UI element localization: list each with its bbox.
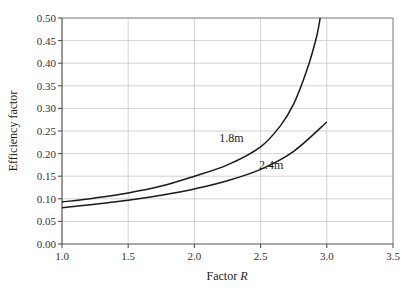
curve-label-2.4m: 2.4m: [259, 158, 284, 172]
y-tick-label: 0.30: [37, 102, 57, 114]
y-tick-label: 0.20: [37, 148, 57, 160]
x-tick-label: 2.0: [188, 250, 202, 262]
x-tick-label: 3.5: [386, 250, 400, 262]
x-axis-title: Factor R: [207, 269, 249, 283]
efficiency-chart: 1.01.52.02.53.03.5 0.000.050.100.150.200…: [0, 0, 413, 296]
y-tick-label: 0.05: [37, 215, 57, 227]
y-tick-label: 0.15: [37, 170, 57, 182]
y-tick-label: 0.40: [37, 57, 57, 69]
y-tick-label: 0.50: [37, 12, 57, 24]
y-tick-label: 0.35: [37, 80, 57, 92]
x-tick-label: 1.5: [121, 250, 135, 262]
x-tick-label: 3.0: [320, 250, 334, 262]
x-tick-label: 2.5: [254, 250, 268, 262]
x-tick-label: 1.0: [55, 250, 69, 262]
y-tick-label: 0.25: [37, 125, 57, 137]
curve-label-1.8m: 1.8m: [219, 131, 244, 145]
curve-1.8m: [62, 18, 320, 202]
y-tick-label: 0.45: [37, 35, 57, 47]
y-tick-label: 0.10: [37, 193, 57, 205]
y-axis-ticks: 0.000.050.100.150.200.250.300.350.400.45…: [37, 12, 62, 250]
x-axis-ticks: 1.01.52.02.53.03.5: [55, 244, 400, 262]
y-tick-label: 0.00: [37, 238, 57, 250]
y-axis-title: Efficiency factor: [6, 91, 20, 172]
